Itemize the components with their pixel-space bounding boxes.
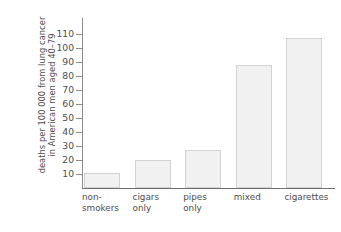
bar-slot (234, 16, 285, 188)
y-axis-tick-label: 80 (52, 71, 74, 80)
plot-area (82, 16, 335, 188)
x-axis-category-labels: non- smokerscigars onlypipes onlymixedci… (82, 192, 335, 232)
y-axis-title-line-1: deaths per 100 000 from lung cancer (37, 17, 47, 174)
y-axis-tick-labels: 102030405060708090100110 (48, 0, 74, 232)
bar-slot (183, 16, 234, 188)
x-axis-line (82, 188, 335, 189)
x-axis-category-label: mixed (234, 192, 286, 203)
y-axis-tick-label: 90 (52, 57, 74, 66)
x-axis-category-label: pipes only (183, 192, 235, 215)
bar[interactable] (185, 150, 221, 188)
bar[interactable] (135, 160, 171, 188)
y-axis-tick-label: 70 (52, 85, 74, 94)
bar[interactable] (236, 65, 272, 188)
y-axis-tick-label: 110 (52, 29, 74, 38)
y-axis-tick-label: 50 (52, 113, 74, 122)
bar[interactable] (286, 38, 322, 188)
bar-chart: deaths per 100 000 from lung cancer in A… (0, 0, 341, 232)
x-axis-category-label: cigarettes (284, 192, 336, 203)
bar-slot (284, 16, 335, 188)
y-axis-tick-label: 100 (52, 43, 74, 52)
y-axis-tick-label: 40 (52, 127, 74, 136)
x-axis-category-label: non- smokers (82, 192, 134, 215)
y-axis-tick-label: 60 (52, 99, 74, 108)
y-axis-tick-label: 30 (52, 141, 74, 150)
bar-slot (82, 16, 133, 188)
x-axis-category-label: cigars only (133, 192, 185, 215)
y-axis-tick-label: 20 (52, 155, 74, 164)
y-axis-tick-label: 10 (52, 169, 74, 178)
bar[interactable] (84, 173, 120, 188)
bar-slot (133, 16, 184, 188)
